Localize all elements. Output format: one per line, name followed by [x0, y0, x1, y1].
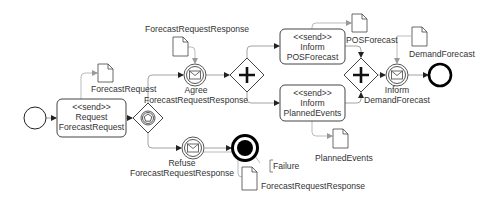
- task-stereotype: <<send>>: [293, 32, 332, 42]
- task-label-line1: Inform: [300, 42, 324, 52]
- demand-forecast-label: DemandForecast: [409, 49, 476, 59]
- parallel-join-gateway[interactable]: [344, 58, 378, 92]
- forecast-request-label: ForecastRequest: [91, 84, 157, 94]
- start-event[interactable]: [24, 107, 46, 129]
- refuse-label-line1: Refuse: [168, 158, 195, 168]
- task-inform-pos-forecast[interactable]: <<send>> Inform POSForecast: [280, 29, 345, 64]
- refuse-message-event[interactable]: [182, 137, 204, 159]
- envelope-icon: [392, 71, 403, 79]
- document-icon: [352, 14, 367, 32]
- document-icon: [333, 129, 348, 148]
- forecast-request-response-top-label: ForecastRequestResponse: [145, 24, 249, 34]
- envelope-icon: [188, 144, 199, 152]
- data-object-forecast-request-response-top[interactable]: [173, 37, 188, 56]
- parallel-split-gateway[interactable]: [230, 58, 264, 92]
- data-object-demand-forecast[interactable]: [412, 27, 427, 46]
- task-request-forecast-request[interactable]: <<send>> Request ForecastRequest: [57, 99, 126, 137]
- inform-demand-label-line1: Inform: [385, 85, 409, 95]
- task-label-line1: Request: [75, 112, 108, 122]
- data-object-forecast-request[interactable]: [98, 64, 113, 82]
- data-object-pos-forecast[interactable]: [352, 14, 367, 32]
- refuse-label-line2: ForecastRequestResponse: [130, 168, 234, 178]
- task-label-line1: Inform: [300, 98, 324, 108]
- bpmn-diagram: <<send>> Request ForecastRequest Agree F…: [0, 0, 488, 201]
- task-stereotype: <<send>>: [293, 88, 332, 98]
- agree-label-line2: ForecastRequestResponse: [144, 95, 248, 105]
- document-icon: [412, 27, 427, 46]
- task-label-line2: POSForecast: [287, 52, 339, 62]
- forecast-request-response-bottom-label: ForecastRequestResponse: [261, 181, 365, 191]
- planned-events-label: PlannedEvents: [315, 153, 373, 163]
- agree-label-line1: Agree: [185, 85, 208, 95]
- failure-end-event[interactable]: [233, 136, 258, 161]
- inform-demand-forecast-event[interactable]: [386, 64, 408, 86]
- end-event[interactable]: [429, 64, 451, 86]
- task-inform-planned-events[interactable]: <<send>> Inform PlannedEvents: [280, 85, 345, 121]
- task-stereotype: <<send>>: [72, 102, 111, 112]
- inform-demand-label-line2: DemandForecast: [364, 95, 431, 105]
- task-label-line2: PlannedEvents: [284, 108, 342, 118]
- data-object-planned-events[interactable]: [333, 129, 348, 148]
- data-object-forecast-request-response-bottom[interactable]: [242, 167, 257, 190]
- document-icon: [242, 167, 257, 190]
- agree-message-event[interactable]: [184, 64, 206, 86]
- task-label-line2: ForecastRequest: [59, 122, 125, 132]
- document-icon: [98, 64, 113, 82]
- pos-forecast-label: POSForecast: [346, 35, 398, 45]
- event-based-gateway[interactable]: [133, 103, 163, 133]
- document-icon: [173, 37, 188, 56]
- envelope-icon: [190, 71, 201, 79]
- failure-label: Failure: [273, 161, 299, 171]
